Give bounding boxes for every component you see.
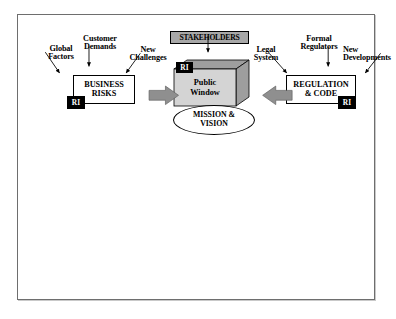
label-line: & CODE	[305, 89, 338, 98]
label-line: Window	[190, 88, 219, 97]
badge-ri-public-window: RI	[176, 62, 193, 73]
label-line: Challenges	[129, 53, 166, 62]
label-line: System	[254, 53, 278, 62]
node-mission-vision[interactable]: MISSION & VISION	[173, 105, 255, 135]
label-new-developments: New Developments	[343, 46, 396, 63]
badge-ri-regulation-code: RI	[338, 96, 356, 109]
label-line: Regulators	[300, 42, 337, 51]
badge-ri-business-risks: RI	[67, 96, 85, 109]
node-mission-vision-label: MISSION & VISION	[193, 111, 235, 129]
label-line: VISION	[200, 119, 228, 128]
label-formal-regulators: Formal Regulators	[292, 35, 346, 52]
label-line: Developments	[343, 53, 391, 62]
diagram-frame: Global Factors Customer Demands New Chal…	[17, 14, 375, 300]
node-public-window-label: Public Window	[174, 69, 236, 107]
label-line: Public	[194, 78, 216, 87]
label-line: Demands	[84, 42, 116, 51]
node-stakeholders[interactable]: STAKEHOLDERS	[170, 31, 249, 44]
label-legal-system: Legal System	[246, 46, 286, 63]
node-business-risks-label: BUSINESS RISKS	[84, 81, 124, 98]
label-line: RISKS	[92, 89, 117, 98]
label-new-challenges: New Challenges	[122, 46, 174, 63]
node-stakeholders-label: STAKEHOLDERS	[180, 33, 240, 42]
label-customer-demands: Customer Demands	[74, 35, 126, 52]
label-line: MISSION &	[193, 110, 235, 119]
label-line: Factors	[48, 52, 74, 61]
